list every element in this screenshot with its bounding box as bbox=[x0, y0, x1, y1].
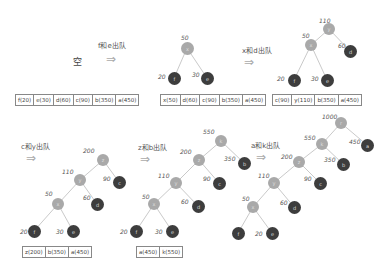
tree-node-z: z bbox=[193, 154, 205, 166]
tree-node-c: c bbox=[113, 176, 126, 189]
queue-cell: a(450) bbox=[339, 95, 361, 105]
weight-label: 50 bbox=[45, 190, 53, 197]
tree-node-e: e bbox=[321, 74, 334, 87]
queue-cell: e(30) bbox=[34, 95, 54, 105]
priority-queue-4: z(200) b(350) a(450) bbox=[22, 246, 92, 258]
weight-label: 200 bbox=[83, 147, 94, 154]
tree-node-a: a bbox=[361, 139, 374, 152]
arrow-icon: ⇒ bbox=[26, 152, 36, 164]
tree-node-b: b bbox=[337, 158, 350, 171]
arrow-icon: ⇒ bbox=[140, 153, 150, 165]
tree-node-b: b bbox=[238, 157, 251, 170]
weight-label: 60 bbox=[181, 198, 189, 205]
priority-queue-2: x(50) d(60) c(90) b(350) a(450) bbox=[160, 94, 266, 106]
weight-label: 50 bbox=[142, 193, 150, 200]
empty-label: 空 bbox=[73, 55, 82, 68]
weight-label: 60 bbox=[83, 194, 91, 201]
tree-node-root: r bbox=[335, 117, 347, 129]
weight-label: 50 bbox=[181, 34, 189, 41]
weight-label: 50 bbox=[242, 195, 250, 202]
step-label: f和e出队 bbox=[98, 40, 126, 50]
queue-cell: c(90) bbox=[200, 95, 219, 105]
priority-queue-5: a(450) k(550) bbox=[136, 246, 183, 258]
queue-cell: c(90) bbox=[74, 95, 93, 105]
step-label: c和y出队 bbox=[21, 141, 50, 151]
tree-node-d: d bbox=[344, 45, 357, 58]
weight-label: 350 bbox=[324, 156, 335, 163]
priority-queue-3: c(90) y(110) b(350) a(450) bbox=[272, 94, 362, 106]
weight-label: 20 bbox=[158, 73, 166, 80]
tree-node-c: c bbox=[314, 177, 327, 190]
tree-node-z: z bbox=[293, 156, 305, 168]
weight-label: 30 bbox=[192, 71, 200, 78]
step-label: z和b出队 bbox=[138, 142, 167, 152]
weight-label: 200 bbox=[180, 148, 191, 155]
weight-label: 30 bbox=[155, 228, 163, 235]
queue-cell: a(450) bbox=[116, 95, 138, 105]
priority-queue-1: f(20) e(30) d(60) c(90) b(350) a(450) bbox=[15, 94, 139, 106]
arrow-icon: ⇒ bbox=[256, 151, 266, 163]
tree-node-d: d bbox=[192, 200, 205, 213]
weight-label: 20 bbox=[277, 75, 285, 82]
tree-node-x: x bbox=[305, 39, 317, 51]
tree-node-f: f bbox=[288, 74, 301, 87]
tree-node-c: c bbox=[213, 177, 226, 190]
queue-cell: f(20) bbox=[16, 95, 34, 105]
tree-node-d: d bbox=[91, 198, 104, 211]
queue-cell: b(350) bbox=[220, 95, 243, 105]
tree-node-x: x bbox=[181, 42, 194, 55]
tree-node-y: y bbox=[74, 174, 86, 186]
queue-cell: d(60) bbox=[181, 95, 201, 105]
weight-label: 550 bbox=[304, 134, 315, 141]
tree-node-e: e bbox=[166, 225, 179, 238]
weight-label: 30 bbox=[311, 75, 319, 82]
tree-node-y: y bbox=[170, 177, 182, 189]
weight-label: 110 bbox=[62, 168, 73, 175]
weight-label: 90 bbox=[103, 175, 111, 182]
tree-node-f: f bbox=[130, 225, 143, 238]
tree-node-y: y bbox=[268, 177, 280, 189]
tree-node-k: k bbox=[316, 138, 328, 150]
tree-node-x: x bbox=[148, 198, 160, 210]
weight-label: 350 bbox=[224, 155, 235, 162]
step-label: x和d出队 bbox=[242, 45, 272, 55]
queue-cell: b(350) bbox=[315, 95, 338, 105]
weight-label: 90 bbox=[304, 175, 312, 182]
queue-cell: c(90) bbox=[273, 95, 292, 105]
weight-label: 30 bbox=[56, 228, 64, 235]
weight-label: 20 bbox=[255, 230, 263, 237]
weight-label: 550 bbox=[203, 128, 214, 135]
tree-node-e: e bbox=[201, 72, 214, 85]
step-label: a和k出队 bbox=[251, 140, 280, 150]
tree-node-y: y bbox=[323, 23, 335, 35]
tree-node-e: e bbox=[67, 225, 80, 238]
tree-node-x: x bbox=[247, 201, 259, 213]
tree-node-z: z bbox=[97, 154, 109, 166]
tree-node-k: k bbox=[215, 135, 227, 147]
queue-cell: a(450) bbox=[137, 247, 160, 257]
arrow-icon: ⇒ bbox=[244, 56, 254, 68]
tree-node-f: f bbox=[28, 225, 41, 238]
queue-cell: a(450) bbox=[243, 95, 265, 105]
tree-node-e: e bbox=[266, 227, 279, 240]
weight-label: 60 bbox=[280, 199, 288, 206]
queue-cell: b(350) bbox=[93, 95, 116, 105]
weight-label: 200 bbox=[281, 153, 292, 160]
weight-label: 50 bbox=[302, 32, 310, 39]
weight-label: 110 bbox=[158, 172, 169, 179]
tree-node-f: f bbox=[232, 227, 245, 240]
queue-cell: k(550) bbox=[160, 247, 182, 257]
queue-cell: d(60) bbox=[54, 95, 74, 105]
queue-cell: y(110) bbox=[292, 95, 315, 105]
weight-label: 450 bbox=[349, 138, 360, 145]
tree-node-d: d bbox=[288, 201, 301, 214]
huffman-construction-diagram: 空 f(20) e(30) d(60) c(90) b(350) a(450) … bbox=[0, 0, 385, 276]
weight-label: 20 bbox=[20, 228, 28, 235]
tree-node-f: f bbox=[168, 72, 181, 85]
queue-cell: a(450) bbox=[69, 247, 91, 257]
arrow-icon: ⇒ bbox=[106, 53, 116, 65]
tree-node-x: x bbox=[52, 198, 64, 210]
weight-label: 90 bbox=[203, 175, 211, 182]
weight-label: 20 bbox=[120, 228, 128, 235]
queue-cell: x(50) bbox=[161, 95, 181, 105]
